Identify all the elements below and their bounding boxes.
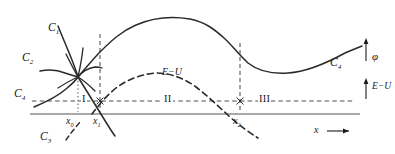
c4-left-label: C4	[14, 88, 25, 102]
energy-minus-potential-curve	[92, 73, 258, 138]
phi-legend-label: φ	[372, 51, 378, 62]
quantum-wavefunction-figure: C1 C2 C4 C3 C4 E−U x0 x1 x2 I II III x φ…	[0, 0, 395, 154]
fan-ray-lower-right	[78, 77, 95, 91]
region-1-label: I	[81, 94, 87, 105]
c2-curve	[40, 70, 78, 77]
c1-curve	[58, 26, 78, 77]
region-3-label: III	[258, 94, 271, 105]
x-axis-label: x	[314, 125, 318, 135]
figure-canvas	[0, 0, 395, 154]
x1-label: x1	[93, 116, 101, 128]
energy-legend-label: E−U	[372, 82, 391, 92]
phi-wavefunction-curve	[78, 18, 362, 77]
c2-label: C2	[22, 52, 33, 66]
energy-axis-arrow-icon	[364, 78, 369, 99]
c3-label: C3	[40, 131, 51, 145]
x0-label: x0	[66, 116, 74, 128]
c4-right-label: C4	[330, 57, 341, 71]
x2-label: x2	[233, 116, 241, 128]
phi-axis-arrow-icon	[364, 38, 369, 61]
region-2-label: II	[163, 94, 173, 105]
c1-label: C1	[48, 22, 59, 36]
energy-minus-potential-label: E−U	[162, 67, 182, 77]
x-axis-arrow	[327, 129, 349, 134]
c4-left-curve	[34, 77, 78, 107]
